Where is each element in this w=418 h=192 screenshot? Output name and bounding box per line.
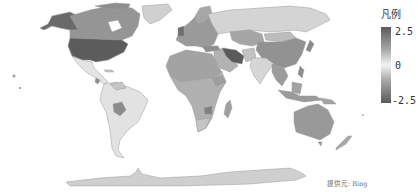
region-alaska[interactable] (40, 12, 78, 30)
region-cuba[interactable] (104, 70, 114, 72)
region-australia[interactable] (294, 104, 334, 140)
region-south-america[interactable] (100, 82, 148, 158)
legend-max-label: 2.5 (395, 26, 413, 37)
region-borneo[interactable] (292, 82, 302, 94)
region-antarctica[interactable] (66, 168, 306, 186)
region-fiji[interactable] (362, 114, 364, 116)
region-japan[interactable] (306, 40, 314, 52)
region-hawaii[interactable] (13, 75, 16, 78)
legend-mid-label: 0 (395, 60, 401, 71)
region-uk[interactable] (178, 26, 184, 36)
region-canada[interactable] (70, 6, 140, 40)
region-pacific-island[interactable] (19, 87, 21, 89)
region-papua[interactable] (320, 98, 336, 104)
map-attribution: 提供元: Bing (327, 178, 367, 188)
world-choropleth-map[interactable] (0, 0, 418, 192)
region-greenland[interactable] (142, 4, 172, 24)
legend-title: 凡例 (381, 6, 401, 21)
region-philippines[interactable] (298, 66, 304, 78)
map-legend: 凡例 2.5 0 -2.5 (375, 6, 418, 116)
region-tasmania[interactable] (318, 142, 322, 146)
region-russia[interactable] (208, 6, 330, 34)
region-india[interactable] (250, 58, 274, 84)
region-madagascar[interactable] (224, 100, 232, 118)
legend-colorbar (381, 27, 391, 103)
legend-min-label: -2.5 (392, 95, 416, 106)
region-new-zealand[interactable] (336, 136, 352, 150)
